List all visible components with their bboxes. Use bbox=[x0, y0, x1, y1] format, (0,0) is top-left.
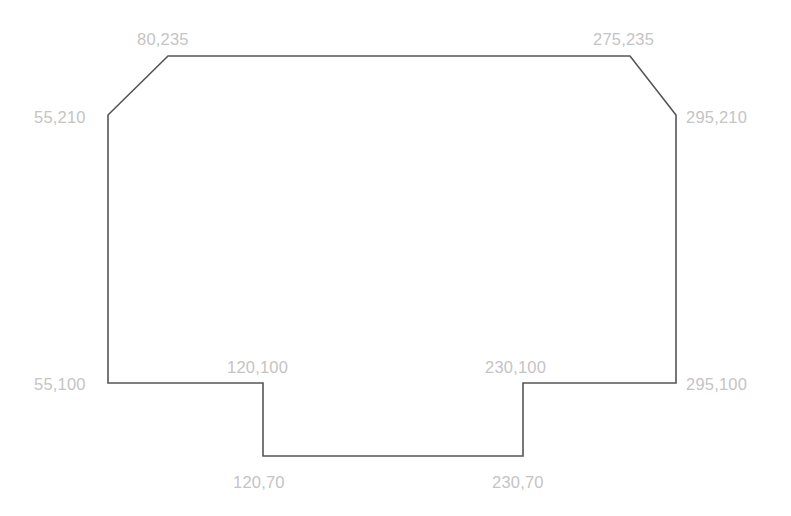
vertex-label-230-70: 230,70 bbox=[492, 474, 544, 491]
polygon-outline bbox=[108, 56, 676, 456]
vertex-label-230-100: 230,100 bbox=[485, 359, 546, 376]
vertex-label-295-100: 295,100 bbox=[686, 376, 747, 393]
diagram-canvas bbox=[0, 0, 791, 516]
vertex-label-120-70: 120,70 bbox=[233, 474, 285, 491]
vertex-label-55-100: 55,100 bbox=[34, 376, 86, 393]
vertex-label-120-100: 120,100 bbox=[227, 359, 288, 376]
vertex-label-55-210: 55,210 bbox=[34, 109, 86, 126]
vertex-label-295-210: 295,210 bbox=[686, 109, 747, 126]
vertex-label-80-235: 80,235 bbox=[137, 31, 189, 48]
vertex-label-275-235: 275,235 bbox=[593, 31, 654, 48]
